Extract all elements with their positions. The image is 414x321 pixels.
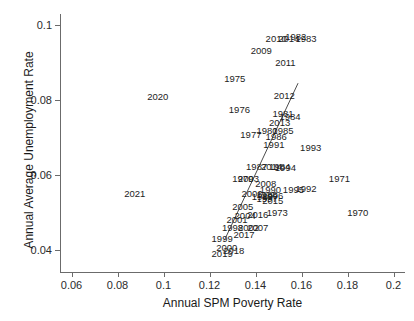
data-point-label: 2016	[247, 210, 268, 220]
data-point-label: 2011	[275, 59, 295, 69]
x-tick-mark	[302, 272, 303, 277]
data-point-label: 1971	[329, 175, 350, 185]
data-point-label: 1991	[263, 140, 284, 150]
data-point-label: 2017	[233, 230, 254, 240]
x-tick-mark	[72, 272, 73, 277]
x-tick-label: 0.12	[199, 279, 220, 291]
x-tick-mark	[118, 272, 119, 277]
x-tick-label: 0.06	[61, 279, 82, 291]
data-point-label: 2014	[278, 35, 299, 45]
y-tick-mark	[55, 250, 60, 251]
data-point-label: 2012	[274, 91, 295, 101]
scatter-chart-figure: 0.040.060.080.1 0.060.080.10.120.140.160…	[0, 0, 414, 321]
x-tick-mark	[210, 272, 211, 277]
data-point-label: 2013	[269, 118, 290, 128]
data-point-label: 1975	[224, 74, 245, 84]
data-point-label: 1993	[300, 143, 321, 153]
x-axis-line	[60, 272, 405, 273]
data-point-label: 2015	[262, 196, 283, 206]
x-tick-label: 0.08	[107, 279, 128, 291]
x-tick-label: 0.16	[291, 279, 312, 291]
y-tick-mark	[55, 175, 60, 176]
y-tick-mark	[55, 25, 60, 26]
data-point-label: 1973	[267, 209, 288, 219]
data-point-label: 1970	[347, 209, 368, 219]
y-axis-label: Annual Average Unemployment Rate	[22, 15, 36, 285]
data-point-label: 2014	[261, 163, 282, 173]
x-tick-label: 0.1	[156, 279, 171, 291]
y-tick-label: 0.1	[37, 19, 52, 31]
x-axis-label: Annual SPM Poverty Rate	[60, 296, 405, 310]
x-tick-label: 0.2	[386, 279, 401, 291]
data-point-label: 2019	[212, 249, 233, 259]
data-point-label: 2006	[241, 189, 262, 199]
x-tick-mark	[256, 272, 257, 277]
y-axis-line	[60, 14, 61, 272]
data-point-label: 2021	[124, 189, 145, 199]
data-point-label: 2008	[255, 179, 276, 189]
x-tick-mark	[348, 272, 349, 277]
x-tick-mark	[164, 272, 165, 277]
data-point-label: 1976	[229, 106, 250, 116]
plot-area: 0.040.060.080.1 0.060.080.10.120.140.160…	[0, 0, 414, 321]
x-tick-mark	[394, 272, 395, 277]
x-tick-label: 0.14	[245, 279, 266, 291]
x-tick-label: 0.18	[337, 279, 358, 291]
data-point-label: 2020	[147, 92, 168, 102]
data-point-label: 1995	[283, 185, 304, 195]
y-tick-mark	[55, 100, 60, 101]
data-point-label: 2009	[251, 46, 272, 56]
